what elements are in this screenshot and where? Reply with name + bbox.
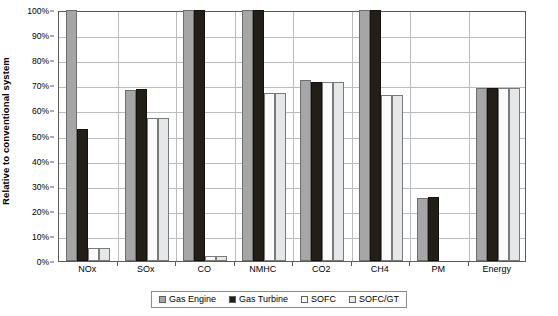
bar-energy-sofc-gt: [509, 88, 520, 261]
legend-label: Gas Engine: [169, 294, 216, 304]
bar-nmhc-sofc: [264, 93, 275, 261]
x-tick-label-pm: PM: [432, 264, 446, 274]
x-tick-label-nmhc: NMHC: [249, 264, 276, 274]
bar-energy-gas-engine: [476, 88, 487, 261]
bar-ch4-sofc: [381, 95, 392, 261]
bar-pm-gas-turbine: [428, 197, 439, 261]
bar-group: [176, 12, 235, 261]
bar-group: [235, 12, 294, 261]
bar-energy-gas-turbine: [487, 88, 498, 261]
bar-nox-gas-turbine: [77, 129, 88, 261]
bar-sox-gas-engine: [125, 90, 136, 261]
y-axis-tick-labels: 0%10%20%30%40%50%60%70%80%90%100%: [18, 11, 54, 262]
bar-sox-gas-turbine: [136, 89, 147, 261]
y-axis-title: Relative to conventional system: [0, 0, 14, 262]
bar-groups: [59, 12, 525, 261]
bar-ch4-gas-turbine: [370, 10, 381, 261]
y-tick-mark: [50, 111, 54, 112]
bar-co2-gas-engine: [300, 80, 311, 261]
chart-page: Relative to conventional system 0%10%20%…: [0, 0, 558, 316]
x-tick-mark: [234, 262, 235, 266]
x-tick-label-co: CO: [198, 264, 212, 274]
bar-nmhc-gas-turbine: [253, 10, 264, 261]
bar-energy-sofc: [498, 88, 509, 261]
bar-co-gas-engine: [183, 10, 194, 261]
x-tick-mark: [175, 262, 176, 266]
x-tick-label-energy: Energy: [482, 264, 511, 274]
y-tick-label: 80%: [32, 56, 49, 66]
y-tick-label: 90%: [32, 31, 49, 41]
y-tick-mark: [50, 186, 54, 187]
bar-ch4-gas-engine: [359, 10, 370, 261]
x-tick-mark: [351, 262, 352, 266]
bar-co2-gas-turbine: [311, 82, 322, 261]
y-tick-mark: [50, 11, 54, 12]
legend-swatch-icon: [301, 296, 308, 303]
bar-group: [293, 12, 352, 261]
bar-ch4-sofc-gt: [392, 95, 403, 261]
x-tick-label-ch4: CH4: [371, 264, 389, 274]
legend-swatch-icon: [159, 296, 166, 303]
y-tick-label: 20%: [32, 207, 49, 217]
bar-co2-sofc: [322, 82, 333, 261]
bar-nox-sofc: [88, 248, 99, 261]
y-tick-label: 30%: [32, 182, 49, 192]
group-separator: [469, 12, 470, 261]
plot-area: [58, 11, 526, 262]
x-tick-label-sox: SOx: [137, 264, 155, 274]
y-tick-label: 50%: [32, 132, 49, 142]
legend-swatch-icon: [349, 296, 356, 303]
bar-nmhc-gas-engine: [242, 10, 253, 261]
group-separator: [176, 12, 177, 261]
bar-group: [469, 12, 528, 261]
y-tick-mark: [50, 262, 54, 263]
x-tick-mark: [468, 262, 469, 266]
y-tick-label: 70%: [32, 81, 49, 91]
bar-nox-sofc-gt: [99, 248, 110, 261]
y-tick-label: 0%: [37, 257, 49, 267]
x-tick-mark: [409, 262, 410, 266]
y-tick-mark: [50, 161, 54, 162]
bar-group: [59, 12, 118, 261]
y-tick-label: 40%: [32, 157, 49, 167]
x-tick-label-co2: CO2: [312, 264, 331, 274]
bar-group: [118, 12, 177, 261]
y-tick-mark: [50, 236, 54, 237]
bar-nmhc-sofc-gt: [275, 93, 286, 261]
legend-item-sofc[interactable]: SOFC: [301, 294, 336, 304]
group-separator: [235, 12, 236, 261]
group-separator: [118, 12, 119, 261]
x-axis-tick-labels: NOxSOxCONMHCCO2CH4PMEnergy: [58, 264, 526, 280]
legend-label: Gas Turbine: [239, 294, 288, 304]
legend-swatch-icon: [229, 296, 236, 303]
bar-co-gas-turbine: [194, 10, 205, 261]
y-tick-label: 100%: [27, 6, 49, 16]
y-tick-label: 60%: [32, 106, 49, 116]
y-tick-mark: [50, 136, 54, 137]
x-tick-label-nox: NOx: [78, 264, 96, 274]
y-tick-mark: [50, 36, 54, 37]
bar-group: [410, 12, 469, 261]
legend-item-sofc-gt[interactable]: SOFC/GT: [349, 294, 399, 304]
bar-pm-gas-engine: [417, 198, 428, 261]
bar-sox-sofc: [147, 118, 158, 261]
group-separator: [352, 12, 353, 261]
group-separator: [293, 12, 294, 261]
chart-legend: Gas EngineGas TurbineSOFCSOFC/GT: [151, 291, 407, 308]
x-tick-mark: [292, 262, 293, 266]
legend-item-gas-engine[interactable]: Gas Engine: [159, 294, 216, 304]
bar-co2-sofc-gt: [333, 82, 344, 261]
bar-sox-sofc-gt: [158, 118, 169, 261]
bar-group: [352, 12, 411, 261]
y-tick-mark: [50, 86, 54, 87]
bar-co-sofc: [205, 256, 216, 261]
legend-label: SOFC/GT: [359, 294, 399, 304]
legend-label: SOFC: [311, 294, 336, 304]
y-tick-label: 10%: [32, 232, 49, 242]
y-tick-mark: [50, 61, 54, 62]
bar-co-sofc-gt: [216, 256, 227, 261]
bar-nox-gas-engine: [66, 10, 77, 261]
legend-item-gas-turbine[interactable]: Gas Turbine: [229, 294, 288, 304]
group-separator: [410, 12, 411, 261]
x-tick-mark: [117, 262, 118, 266]
